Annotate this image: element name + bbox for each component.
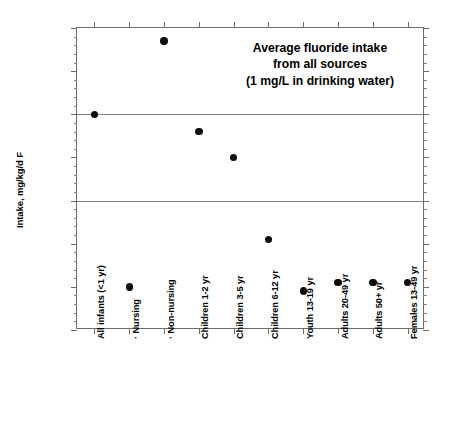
y-axis-minor-tick — [74, 209, 78, 210]
y-axis-minor-tick-right — [423, 149, 427, 150]
x-axis-tick-top — [234, 22, 235, 28]
y-axis-minor-tick — [74, 278, 78, 279]
y-axis-minor-tick — [74, 37, 78, 38]
y-axis-minor-tick — [74, 166, 78, 167]
x-axis-tick-top — [164, 22, 165, 28]
y-axis-minor-tick-right — [423, 252, 427, 253]
y-axis-minor-tick — [74, 63, 78, 64]
y-axis-minor-tick-right — [423, 209, 427, 210]
x-axis-tick-top — [129, 22, 130, 28]
y-axis-major-tick-right — [423, 28, 429, 29]
data-point — [230, 154, 237, 161]
y-axis-major-tick-right — [423, 201, 429, 202]
y-axis-minor-tick-right — [423, 166, 427, 167]
chart-title: Average fluoride intakefrom all sources(… — [205, 40, 435, 89]
y-axis-minor-tick — [74, 123, 78, 124]
y-axis-minor-tick-right — [423, 235, 427, 236]
y-axis-major-tick — [71, 201, 77, 202]
y-axis-major-tick-right — [423, 114, 429, 115]
x-axis-tick — [268, 328, 269, 334]
x-axis-tick — [94, 328, 95, 334]
y-axis-minor-tick — [74, 132, 78, 133]
y-axis-minor-tick-right — [423, 270, 427, 271]
chart-title-line: (1 mg/L in drinking water) — [205, 73, 435, 89]
y-axis-minor-tick — [74, 80, 78, 81]
y-axis-minor-tick — [74, 226, 78, 227]
y-axis-minor-tick-right — [423, 321, 427, 322]
x-axis-tick-top — [94, 22, 95, 28]
x-axis-tick — [303, 328, 304, 334]
y-axis-minor-tick-right — [423, 132, 427, 133]
y-axis-minor-tick-right — [423, 175, 427, 176]
y-axis-minor-tick-right — [423, 192, 427, 193]
y-axis-major-tick — [71, 330, 77, 331]
chart-title-line: Average fluoride intake — [205, 40, 435, 56]
chart-title-line: from all sources — [205, 56, 435, 72]
x-axis-tick — [234, 328, 235, 334]
y-axis-major-tick — [71, 114, 77, 115]
y-axis-minor-tick — [74, 235, 78, 236]
x-axis-tick-top — [338, 22, 339, 28]
y-axis-minor-tick-right — [423, 304, 427, 305]
y-axis-major-tick-right — [423, 244, 429, 245]
y-axis-minor-tick-right — [423, 123, 427, 124]
data-point — [404, 279, 411, 286]
y-axis-minor-tick-right — [423, 226, 427, 227]
x-axis-tick — [338, 328, 339, 334]
data-point — [334, 279, 341, 286]
x-axis-tick-top — [373, 22, 374, 28]
y-axis-minor-tick — [74, 149, 78, 150]
x-axis-tick — [129, 328, 130, 334]
y-axis-minor-tick-right — [423, 261, 427, 262]
y-axis-minor-tick-right — [423, 106, 427, 107]
y-axis-major-tick — [71, 287, 77, 288]
y-axis-minor-tick — [74, 261, 78, 262]
y-axis-minor-tick-right — [423, 218, 427, 219]
x-axis-tick — [408, 328, 409, 334]
data-point — [300, 287, 307, 294]
data-point — [369, 279, 376, 286]
x-axis-tick-top — [199, 22, 200, 28]
y-axis-minor-tick — [74, 295, 78, 296]
y-axis-minor-tick — [74, 192, 78, 193]
y-axis-minor-tick — [74, 183, 78, 184]
y-axis-minor-tick-right — [423, 37, 427, 38]
y-axis-minor-tick — [74, 304, 78, 305]
y-axis-major-tick — [71, 157, 77, 158]
y-axis-minor-tick — [74, 106, 78, 107]
data-point — [126, 283, 133, 290]
data-point — [160, 37, 167, 44]
y-axis-minor-tick — [74, 321, 78, 322]
y-axis-minor-tick-right — [423, 278, 427, 279]
x-axis-tick — [373, 328, 374, 334]
y-axis-minor-tick — [74, 218, 78, 219]
data-point — [91, 111, 98, 118]
data-point — [265, 236, 272, 243]
y-axis-minor-tick — [74, 88, 78, 89]
y-axis-major-tick — [71, 28, 77, 29]
y-axis-major-tick-right — [423, 330, 429, 331]
y-axis-minor-tick — [74, 140, 78, 141]
y-axis-minor-tick — [74, 270, 78, 271]
y-axis-minor-tick — [74, 252, 78, 253]
y-axis-major-tick — [71, 244, 77, 245]
y-axis-major-tick-right — [423, 157, 429, 158]
y-axis-minor-tick-right — [423, 295, 427, 296]
y-axis-minor-tick — [74, 45, 78, 46]
y-axis-minor-tick-right — [423, 313, 427, 314]
y-axis-title: Intake, mg/kg/d F — [14, 120, 30, 260]
y-axis-minor-tick-right — [423, 97, 427, 98]
data-point — [195, 128, 202, 135]
y-axis-minor-tick-right — [423, 183, 427, 184]
x-axis-tick-top — [303, 22, 304, 28]
y-axis-major-tick — [71, 71, 77, 72]
y-axis-minor-tick — [74, 175, 78, 176]
y-axis-minor-tick-right — [423, 140, 427, 141]
x-axis-tick-top — [268, 22, 269, 28]
x-axis-tick — [164, 328, 165, 334]
gridline — [77, 114, 423, 115]
y-axis-minor-tick — [74, 313, 78, 314]
x-axis-tick — [199, 328, 200, 334]
gridline — [77, 201, 423, 202]
x-axis-tick-top — [408, 22, 409, 28]
